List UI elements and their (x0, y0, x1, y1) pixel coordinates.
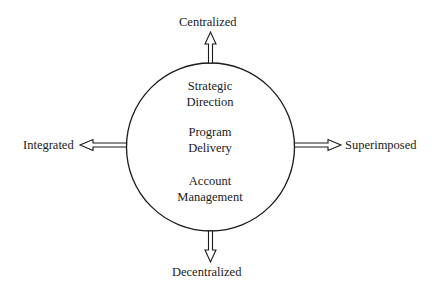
circle-item-line: Management (150, 189, 270, 205)
circle-item-line: Delivery (150, 140, 270, 156)
circle-item-line: Account (150, 173, 270, 189)
arrow-left-icon (80, 140, 127, 151)
label-superimposed: Superimposed (345, 139, 417, 152)
arrow-down-icon (205, 231, 216, 262)
arrow-up-icon (205, 32, 216, 63)
circle-item-line: Direction (150, 94, 270, 110)
arrow-right-icon (295, 140, 342, 151)
circle-item-strategic-direction: Strategic Direction (150, 78, 270, 110)
label-decentralized: Decentralized (172, 266, 241, 279)
circle-item-line: Strategic (150, 78, 270, 94)
label-centralized: Centralized (179, 16, 237, 29)
circle-item-account-management: Account Management (150, 173, 270, 205)
label-integrated: Integrated (23, 139, 74, 152)
circle-item-line: Program (150, 124, 270, 140)
circle-item-program-delivery: Program Delivery (150, 124, 270, 156)
